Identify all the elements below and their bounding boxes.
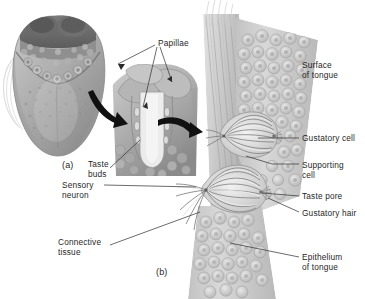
- label-epithelium-of-tongue: Epithelium of tongue: [302, 253, 342, 272]
- label-gustatory-hair: Gustatory hair: [302, 209, 356, 219]
- panel-label-a: (a): [62, 160, 74, 170]
- label-connective-tissue: Connective tissue: [58, 238, 101, 257]
- panel-label-b: (b): [156, 267, 168, 277]
- label-taste-pore: Taste pore: [302, 192, 342, 202]
- label-papillae: Papillae: [158, 39, 189, 49]
- label-taste-buds: Taste buds: [88, 160, 109, 179]
- label-gustatory-cell: Gustatory cell: [302, 134, 355, 144]
- label-surface-of-tongue: Surface of tongue: [302, 61, 338, 80]
- label-supporting-cell: Supporting cell: [302, 161, 344, 180]
- taste-bud-figure: Papillae Taste buds Sensory neuron Conne…: [0, 0, 365, 299]
- label-sensory-neuron: Sensory neuron: [62, 181, 94, 200]
- tongue-dorsum-illustration: [3, 12, 109, 156]
- taste-bud-section-illustration: [176, 0, 318, 299]
